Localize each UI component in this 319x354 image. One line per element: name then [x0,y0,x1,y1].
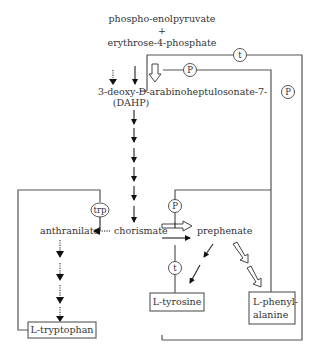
phenylalanine-label-line1: L-phenyl- [253,296,298,307]
plus-sign: + [158,25,166,36]
tyrosine-mid-regulator: t [169,245,182,293]
chorismate-label: chorismate [114,225,168,236]
phenylalanine-branch-arrows [233,242,261,287]
phenylalanine-regulator-label-top: P [187,65,193,75]
phosphate-label: P [285,87,291,97]
dahp-synthase-arrows [109,64,161,85]
phenylalanine-regulator-label-mid: P [172,201,178,211]
tyrosine-regulator-label-mid: t [173,263,177,273]
pathway-diagram: phospho-enolpyruvate + erythrose-4-phosp… [0,0,319,354]
tyrosine-branch-arrows [190,244,213,283]
prephenate-label: prephenate [197,225,253,236]
tyrosine-label: L-tyrosine [153,296,202,307]
erythrose-4-phosphate-label: erythrose-4-phosphate [108,37,217,48]
tryptophan-feedback-loop: trp [18,190,109,330]
tryptophan-label: L-tryptophan [31,324,94,335]
dahp-label: 3-deoxy-D-arabinoheptulosonate-7- [98,86,267,97]
phenylalanine-feedback-loop: P P [163,64,271,293]
tyrosine-regulator-label: t [238,50,242,60]
phosphoenolpyruvate-label: phospho-enolpyruvate [108,13,215,24]
tryptophan-regulator-label: trp [94,205,107,215]
phenylalanine-label-line2: alanine [253,309,289,320]
dahp-abbreviation: (DAHP) [113,97,150,108]
anthranilate-label: anthranilate [40,225,100,236]
tryptophan-branch-arrows [56,240,64,322]
